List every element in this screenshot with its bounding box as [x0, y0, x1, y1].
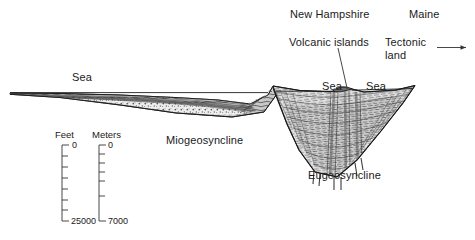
meters-scale-bar: [99, 145, 106, 221]
miogeosyncline-body: [10, 86, 277, 117]
label-new-hampshire: New Hampshire: [290, 8, 370, 20]
label-feet-bottom-value: 25000: [71, 216, 96, 226]
label-eugeosyncline: Eugeosyncline: [308, 169, 381, 181]
label-sea-left: Sea: [72, 71, 92, 83]
tectonic-direction-arrow: [437, 45, 466, 49]
label-sea-center: Sea: [322, 80, 342, 92]
label-feet-unit: Feet: [55, 130, 74, 140]
label-feet-top-value: 0: [72, 140, 77, 150]
feet-scale-bar: [62, 145, 69, 221]
figure-canvas: New Hampshire Maine Volcanic islands Tec…: [0, 0, 475, 240]
label-miogeosyncline: Miogeosyncline: [166, 134, 243, 146]
label-meters-top-value: 0: [108, 140, 113, 150]
label-tectonic-land: Tectonic land: [385, 36, 431, 62]
label-meters-bottom-value: 7000: [108, 216, 128, 226]
label-meters-unit: Meters: [92, 130, 121, 140]
label-volcanic-islands: Volcanic islands: [289, 36, 369, 48]
label-sea-right: Sea: [366, 80, 386, 92]
label-maine: Maine: [409, 8, 439, 20]
